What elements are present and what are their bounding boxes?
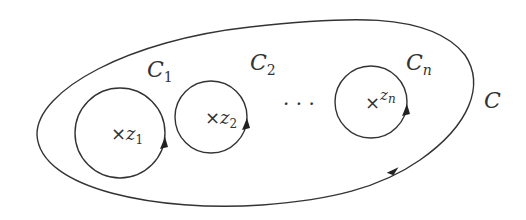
label-c1: C1 <box>147 57 173 85</box>
cn-arrow-icon <box>402 104 410 116</box>
ellipsis: · · · <box>283 92 315 116</box>
contour-diagram: C1 C2 Cn C ×z1 ×z2 ×zn · · · <box>0 0 526 220</box>
label-c2: C2 <box>250 50 276 78</box>
label-c: C <box>484 88 501 113</box>
point-z2: ×z2 <box>205 107 237 131</box>
c2-arrow-icon <box>242 118 250 130</box>
point-z1: ×z1 <box>111 123 143 147</box>
label-cn: Cn <box>406 50 432 78</box>
point-zn: ×zn <box>365 86 396 113</box>
